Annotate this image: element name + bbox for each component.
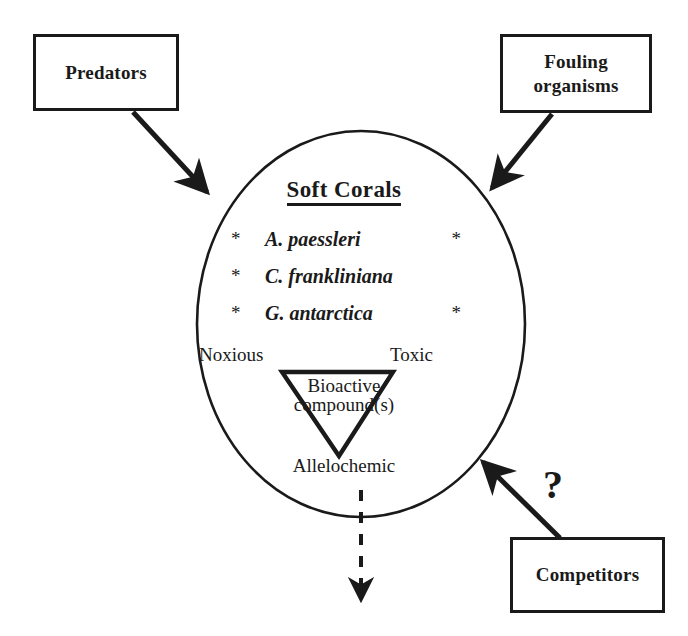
asterisk-icon: * (231, 228, 265, 250)
node-fouling-organisms-label-line1: Fouling (544, 51, 608, 72)
triangle-inner-label: Bioactive compound(s) (0, 377, 688, 414)
diagram-canvas: Predators Fouling organisms Competitors … (0, 0, 688, 636)
node-predators-label: Predators (65, 61, 147, 85)
triangle-label-noxious: Noxious (199, 344, 263, 366)
triangle-label-toxic: Toxic (390, 344, 433, 366)
asterisk-icon: * (439, 302, 461, 324)
species-list-item: * G. antarctica * (231, 300, 461, 326)
node-predators[interactable]: Predators (33, 34, 179, 111)
asterisk-icon: * (231, 265, 265, 287)
species-list-item: * A. paessleri * (231, 226, 461, 252)
soft-corals-heading-text: Soft Corals (287, 177, 402, 206)
asterisk-icon: * (231, 302, 265, 324)
node-fouling-organisms[interactable]: Fouling organisms (500, 34, 652, 113)
node-fouling-organisms-label-line2: organisms (533, 75, 618, 96)
species-name: A. paessleri (265, 228, 439, 251)
triangle-label-allelochemic: Allelochemic (0, 455, 688, 477)
species-name: G. antarctica (265, 302, 439, 325)
node-competitors-label: Competitors (536, 563, 640, 587)
node-fouling-organisms-label: Fouling organisms (533, 50, 618, 98)
uncertainty-question-mark: ? (543, 461, 563, 508)
species-name: C. frankliniana (265, 265, 439, 288)
asterisk-icon: * (439, 228, 461, 250)
node-competitors[interactable]: Competitors (510, 537, 665, 613)
soft-corals-heading: Soft Corals (0, 177, 688, 203)
species-list-item: * C. frankliniana (231, 263, 461, 289)
triangle-inner-label-line2: compound(s) (294, 394, 394, 415)
